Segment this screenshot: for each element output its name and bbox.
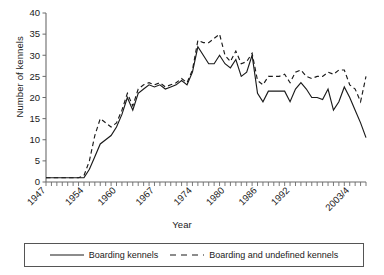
x-tick-label: 1967 (133, 185, 156, 208)
series-line-solid (46, 47, 366, 178)
x-tick-label: 1974 (171, 185, 194, 208)
x-tick-label: 1980 (204, 185, 227, 208)
x-axis-title: Year (152, 219, 212, 230)
y-axis-title: Number of kennels (14, 38, 25, 118)
data-series-group (46, 34, 366, 178)
x-tick-label: 2003/4 (323, 185, 351, 213)
legend-dashed-line-icon (170, 251, 204, 259)
chart-legend: Boarding kennels Boarding and undefined … (24, 243, 364, 267)
x-tick-label: 1986 (236, 185, 259, 208)
y-tick-label: 10 (29, 134, 40, 145)
legend-item-boarding-and-undefined-kennels: Boarding and undefined kennels (170, 251, 338, 260)
x-axis: 194719541960196719741980198619922003/4 (25, 182, 366, 213)
y-tick-label: 25 (29, 71, 40, 82)
y-tick-label: 30 (29, 50, 40, 61)
x-tick-label: 1992 (269, 185, 292, 208)
plot-area: 0510152025303540 19471954196019671974198… (0, 0, 384, 240)
legend-label: Boarding and undefined kennels (209, 251, 338, 260)
y-tick-label: 20 (29, 92, 40, 103)
y-tick-label: 5 (35, 155, 40, 166)
x-tick-label: 1947 (25, 185, 48, 208)
y-tick-label: 35 (29, 28, 40, 39)
x-tick-label: 1954 (63, 185, 86, 208)
legend-label: Boarding kennels (89, 251, 159, 260)
y-tick-label: 15 (29, 113, 40, 124)
kennels-line-chart: 0510152025303540 19471954196019671974198… (0, 0, 384, 275)
y-axis: 0510152025303540 (29, 7, 46, 187)
series-line-dashed (46, 34, 366, 178)
legend-solid-line-icon (50, 251, 84, 259)
x-tick-label: 1960 (95, 185, 118, 208)
y-tick-label: 40 (29, 7, 40, 18)
legend-item-boarding-kennels: Boarding kennels (50, 251, 159, 260)
